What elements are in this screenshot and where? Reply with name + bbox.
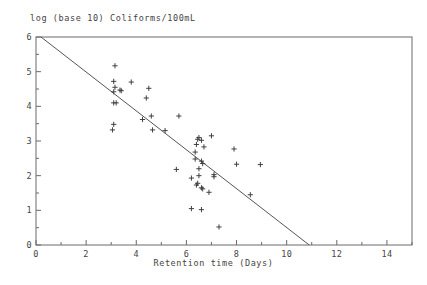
data-point: [194, 142, 199, 147]
data-point: [117, 87, 122, 92]
data-point: [193, 156, 198, 161]
data-points-group: [110, 63, 263, 229]
data-point: [129, 79, 134, 84]
data-point: [189, 206, 194, 211]
data-point: [112, 63, 117, 68]
data-point: [196, 173, 201, 178]
y-tick-label: 3: [22, 136, 32, 146]
data-point: [201, 144, 206, 149]
data-point: [174, 167, 179, 172]
data-point: [189, 175, 194, 180]
data-point: [111, 122, 116, 127]
data-point: [200, 186, 205, 191]
data-point: [196, 166, 201, 171]
data-point: [114, 100, 119, 105]
data-point: [112, 85, 117, 90]
x-axis-label: Retention time (Days): [0, 258, 427, 268]
data-point: [176, 113, 181, 118]
y-tick-label: 4: [22, 101, 32, 111]
data-point: [231, 146, 236, 151]
axes-frame: [36, 37, 412, 245]
y-tick-label: 1: [22, 205, 32, 215]
data-point: [110, 127, 115, 132]
data-point: [258, 162, 263, 167]
scatter-chart-figure: log (base 10) Coliforms/100mL 0246810121…: [0, 0, 427, 285]
data-point: [199, 185, 204, 190]
data-point: [206, 190, 211, 195]
data-point: [150, 127, 155, 132]
data-point: [111, 89, 116, 94]
data-point: [111, 79, 116, 84]
data-point: [200, 161, 205, 166]
data-point: [149, 113, 154, 118]
axis-ticks: [36, 37, 412, 245]
y-tick-label: 6: [22, 32, 32, 42]
data-point: [199, 207, 204, 212]
data-point: [199, 138, 204, 143]
data-point: [144, 95, 149, 100]
data-point: [146, 86, 151, 91]
regression-line: [41, 37, 309, 245]
data-point: [248, 192, 253, 197]
data-point: [193, 149, 198, 154]
data-point: [119, 88, 124, 93]
y-tick-label: 0: [22, 240, 32, 250]
data-point: [234, 162, 239, 167]
data-point: [209, 133, 214, 138]
data-point: [216, 224, 221, 229]
y-tick-label: 2: [22, 171, 32, 181]
plot-canvas: [0, 0, 427, 285]
y-tick-label: 5: [22, 67, 32, 77]
